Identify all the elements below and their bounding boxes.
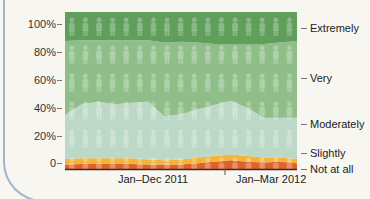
x-label-2011: Jan–Dec 2011 [118, 173, 188, 185]
legend-dash [301, 124, 307, 125]
y-tick-dash [57, 80, 62, 81]
y-tick-60: 60% [34, 74, 56, 86]
legend-very: Very [310, 72, 332, 84]
legend-dash [301, 153, 307, 154]
y-tick-40: 40% [34, 102, 56, 114]
y-tick-20: 20% [34, 130, 56, 142]
legend-extremely: Extremely [310, 22, 359, 34]
y-tick-0: 0 [50, 157, 56, 169]
people-pattern-overlay [65, 12, 297, 170]
y-tick-80: 80% [34, 46, 56, 58]
y-tick-dash [57, 24, 62, 25]
y-tick-dash [57, 52, 62, 53]
y-tick-dash [57, 108, 62, 109]
legend-slightly: Slightly [310, 147, 345, 159]
legend-moderately: Moderately [310, 118, 364, 130]
legend-dash [301, 78, 307, 79]
x-label-2012: Jan–Mar 2012 [236, 173, 306, 185]
legend-dash [301, 28, 307, 29]
y-tick-dash [57, 163, 62, 164]
y-tick-dash [57, 136, 62, 137]
legend-dash [301, 169, 307, 170]
y-tick-100: 100% [28, 18, 56, 30]
legend-not-at-all: Not at all [310, 163, 353, 175]
